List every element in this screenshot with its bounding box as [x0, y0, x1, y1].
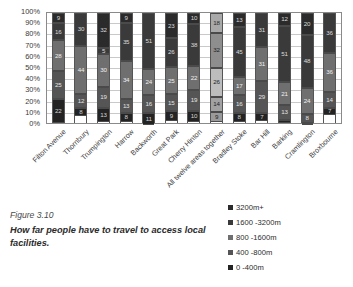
- stacked-bar: 134517168: [233, 13, 246, 123]
- bar-segment-value: 13: [236, 17, 242, 23]
- legend-label: 3200m+: [236, 204, 264, 212]
- bar-segment-value: 36: [326, 69, 332, 75]
- bar-segment-value: 9: [215, 114, 218, 120]
- bar-segment: 7: [256, 113, 267, 121]
- bar-segment-value: 29: [259, 94, 265, 100]
- bar-segment: 16: [53, 23, 64, 41]
- bar-segment-value: 16: [145, 101, 151, 107]
- legend-item: 3200m+: [228, 200, 348, 215]
- y-axis-tick: 30%: [25, 87, 40, 94]
- legend-label: 0 -400m: [236, 264, 264, 272]
- bar-segment-value: 13: [281, 109, 287, 115]
- bar-segment-value: 9: [57, 15, 60, 21]
- bar-segment: 12: [75, 94, 86, 107]
- y-axis-tick: 100%: [21, 8, 40, 15]
- bar-segment-value: 24: [145, 79, 151, 85]
- bar-segment: 9: [121, 13, 132, 23]
- bar-segment: 34: [121, 61, 132, 98]
- bar-segment-value: 22: [191, 75, 197, 81]
- bar-segment: 8: [234, 113, 245, 122]
- x-axis-label: Bar Hill: [249, 128, 271, 150]
- bar-segment: 13: [121, 99, 132, 113]
- bar-segment: 9: [211, 112, 222, 122]
- legend-swatch-icon: [228, 250, 233, 255]
- bar-segment-value: 32: [213, 47, 219, 53]
- bar-segment: 23: [166, 13, 177, 38]
- bar-segment-value: 31: [259, 61, 265, 67]
- bar-segment-value: 19: [191, 97, 197, 103]
- bar-segment: 45: [234, 27, 245, 77]
- legend-item: 400 -800m: [228, 245, 348, 260]
- bar-segment-value: 36: [326, 30, 332, 36]
- legend-swatch-icon: [228, 265, 233, 270]
- bar-segment-value: 13: [100, 112, 106, 118]
- bar-segment-value: 18: [213, 20, 219, 26]
- bar-segment-value: 20: [304, 21, 310, 27]
- bar-segment: 13: [98, 108, 109, 122]
- bar-segment: 12: [279, 13, 290, 26]
- bar-segment: 11: [143, 113, 154, 125]
- bar-segment-value: 25: [168, 78, 174, 84]
- bar-segment-value: 23: [168, 23, 174, 29]
- bar-segment: 15: [166, 94, 177, 111]
- bar-segment: 28: [53, 40, 64, 71]
- bar-segment-value: 38: [191, 42, 197, 48]
- legend-item: 1600 -3200m: [228, 215, 348, 230]
- figure-caption: Figure 3.10 How far people have to trave…: [10, 210, 210, 249]
- bar-column: 134517168: [228, 13, 251, 123]
- bar-column: 3044128: [70, 13, 93, 123]
- bar-segment-value: 34: [123, 77, 129, 83]
- legend-swatch-icon: [228, 205, 233, 210]
- stacked-bar: 3131297: [255, 13, 268, 123]
- legend-swatch-icon: [228, 235, 233, 240]
- bar-segment: 35: [121, 23, 132, 62]
- bar-segment-value: 12: [78, 98, 84, 104]
- bar-segment-value: 13: [123, 103, 129, 109]
- bar-segment: 14: [211, 97, 222, 112]
- stacked-bar: 916282522: [52, 13, 65, 123]
- bar-segment: 22: [188, 66, 199, 90]
- stacked-bar: 93534138: [120, 13, 133, 123]
- bar-segment: 32: [211, 33, 222, 68]
- bar-segment: 32: [98, 13, 109, 48]
- stacked-bar: 1038221910: [187, 13, 200, 123]
- stacked-bar: 125121133: [278, 13, 291, 123]
- bar-segment: 14: [324, 92, 335, 107]
- bar-segment: 51: [143, 13, 154, 69]
- bar-column: 916282522: [47, 13, 70, 123]
- bar-column: 325301913: [92, 13, 115, 123]
- bar-segment-value: 8: [79, 109, 82, 115]
- bar-segment-value: 35: [123, 39, 129, 45]
- bar-segment: 9: [166, 111, 177, 121]
- bar-segment: 8: [302, 114, 313, 123]
- bar-segment-value: 21: [281, 91, 287, 97]
- y-axis-tick: 0%: [29, 120, 40, 127]
- bar-column: 51241611: [137, 13, 160, 123]
- bar-segment-value: 22: [55, 108, 61, 114]
- y-axis-tick: 20%: [25, 98, 40, 105]
- bar-column: 3131297: [250, 13, 273, 123]
- bar-segment: 51: [279, 26, 290, 82]
- bar-segment-value: 9: [170, 113, 173, 119]
- bar-segment: 24: [302, 88, 313, 114]
- bar-column: 20482481: [296, 13, 319, 123]
- chart-container: 100%90%80%70%60%50%40%30%20%10%0% 916282…: [0, 0, 353, 140]
- y-axis-tick: 60%: [25, 53, 40, 60]
- bar-segment: 9: [53, 13, 64, 23]
- bar-segment-value: 8: [238, 114, 241, 120]
- bar-segment-value: 10: [191, 113, 197, 119]
- bar-segment: 31: [256, 13, 267, 47]
- bar-segment: 25: [53, 71, 64, 99]
- bar-segment: 31: [256, 47, 267, 81]
- bar-segment: 19: [98, 87, 109, 108]
- bar-segment: 25: [166, 67, 177, 95]
- y-axis-tick: 80%: [25, 31, 40, 38]
- bar-segment-value: 19: [100, 94, 106, 100]
- bar-segment: 1: [302, 123, 313, 125]
- bar-segment-value: 8: [305, 115, 308, 121]
- bar-segment-value: 14: [326, 97, 332, 103]
- legend-swatch-icon: [228, 220, 233, 225]
- bar-segment-value: 30: [100, 67, 106, 73]
- bar-segment-value: 51: [281, 51, 287, 57]
- stacked-bar: 20482481: [301, 13, 314, 123]
